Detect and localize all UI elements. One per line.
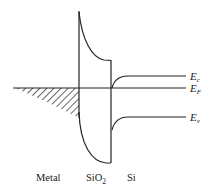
region-label-oxide: SiO2 [86,172,106,186]
metal-filled-states-hatch [10,86,82,122]
si-valence-band [112,117,186,130]
label-ev: Ev [189,111,201,125]
region-label-metal: Metal [36,172,61,183]
label-ef: EF [189,82,202,96]
oxide-valence-band-curve [79,112,111,163]
mos-band-diagram: Ec EF Ev Metal SiO2 Si [0,0,213,192]
oxide-conduction-band-curve [79,12,111,61]
si-conduction-band [112,76,186,88]
region-label-si: Si [127,172,136,183]
